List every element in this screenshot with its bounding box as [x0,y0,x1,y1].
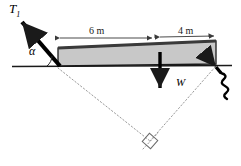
angle-label: α [29,44,35,59]
construction-lines [58,66,216,149]
dimension-line-4m [160,36,214,37]
cable-tension-arrow [22,22,60,66]
dimension-lines [60,36,214,38]
dimension-label-6m: 6 m [89,25,104,36]
dimension-label-4m: 4 m [178,25,193,36]
squiggly-force-arrow [216,67,228,99]
diagram-svg [0,0,241,166]
figure-canvas: T1 α W 6 m 4 m [0,0,241,166]
tension-label: T1 [9,1,20,19]
weight-label: W [176,76,185,88]
beam [58,41,216,66]
